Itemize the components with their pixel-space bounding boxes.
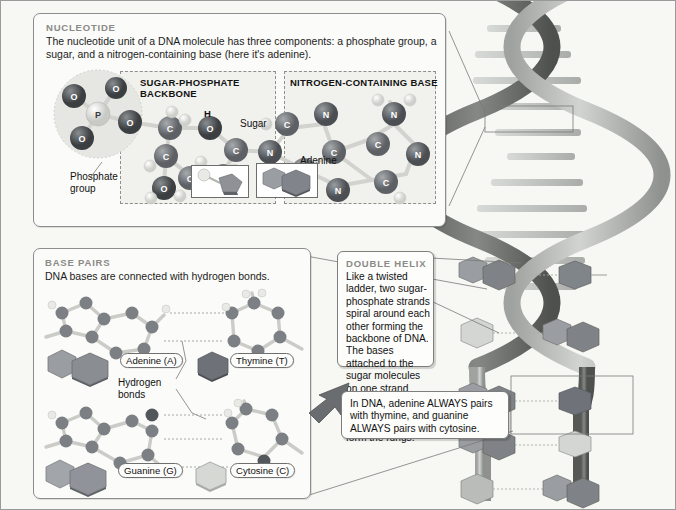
svg-text:N: N (323, 110, 330, 120)
pairing-callout-text: In DNA, adenine ALWAYS pairs with thymin… (350, 398, 504, 435)
svg-text:N: N (335, 186, 342, 196)
nucleotide-panel-description: The nucleotide unit of a DNA molecule ha… (46, 35, 438, 60)
svg-text:C: C (163, 152, 170, 162)
svg-text:O: O (70, 92, 77, 102)
sugar-phosphate-icon-box (191, 165, 249, 198)
svg-text:C: C (375, 140, 382, 150)
guanine-g-tag: Guanine (G) (118, 463, 183, 478)
dna-structure-figure: NUCLEOTIDE The nucleotide unit of a DNA … (0, 0, 676, 510)
svg-text:C: C (284, 120, 291, 130)
svg-text:P: P (95, 110, 101, 120)
double-helix-heading: DOUBLE HELIX (346, 258, 426, 269)
svg-text:C: C (383, 178, 390, 188)
cytosine-c-tag: Cytosine (C) (230, 463, 295, 478)
svg-text:O: O (160, 184, 167, 194)
nitrogen-base-icon-box (256, 163, 318, 198)
double-helix-panel: DOUBLE HELIX Like a twisted ladder, two … (337, 251, 434, 367)
helix-zoom-selection-upper (485, 106, 573, 132)
hydrogen-atom-label: H (204, 108, 211, 119)
nucleotide-panel-heading: NUCLEOTIDE (46, 22, 116, 33)
pairing-callout: In DNA, adenine ALWAYS pairs with thymin… (341, 391, 509, 439)
svg-text:N: N (267, 148, 274, 158)
base-pairs-panel: BASE PAIRS DNA bases are connected with … (33, 248, 311, 499)
phosphate-label-line2: group (70, 183, 118, 195)
svg-text:C: C (233, 146, 240, 156)
helix-zoom-selection-lower (511, 376, 633, 434)
svg-text:O: O (112, 84, 119, 94)
svg-text:O: O (126, 118, 133, 128)
double-helix-leader (431, 258, 521, 263)
phosphate-label-line1: Phosphate (70, 171, 118, 183)
svg-text:N: N (391, 110, 398, 120)
svg-text:C: C (167, 124, 174, 134)
svg-text:O: O (78, 134, 85, 144)
svg-text:O: O (206, 124, 213, 134)
svg-text:N: N (415, 150, 422, 160)
nucleotide-panel: NUCLEOTIDE The nucleotide unit of a DNA … (33, 13, 446, 227)
sugar-label: Sugar (240, 118, 267, 130)
phosphate-group-label: Phosphate group (70, 171, 118, 194)
